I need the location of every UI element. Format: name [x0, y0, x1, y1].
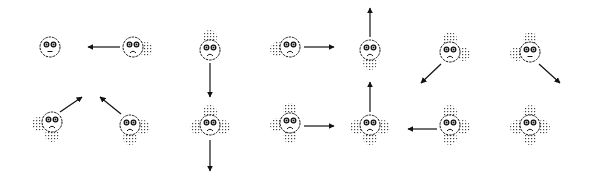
face-r1c5 — [360, 40, 380, 70]
face-outline — [440, 115, 460, 135]
face-r2c5 — [350, 115, 390, 145]
face-outline — [360, 40, 380, 60]
face-r2c4 — [270, 103, 300, 143]
face-r2c1 — [32, 112, 62, 142]
face-outline — [520, 42, 540, 62]
face-outline — [40, 37, 60, 57]
face-outline — [42, 112, 62, 132]
face-r2c3 — [190, 105, 230, 135]
arrow-r2c1 — [60, 97, 82, 112]
face-r1c6 — [440, 32, 470, 62]
arrow-r2c2 — [100, 97, 121, 114]
face-outline — [200, 115, 220, 135]
face-outline — [360, 115, 380, 135]
face-r1c3 — [200, 30, 220, 60]
arrows-layer — [60, 8, 560, 171]
arrow-r1c7 — [539, 64, 560, 83]
face-outline — [520, 115, 540, 135]
arrow-r1c6 — [421, 64, 441, 83]
face-outline — [440, 42, 460, 62]
face-outline — [123, 37, 143, 57]
face-outline — [200, 40, 220, 60]
face-r1c2 — [123, 37, 153, 57]
face-r2c2 — [120, 115, 150, 145]
face-r2c6 — [440, 105, 470, 145]
face-outline — [280, 113, 300, 133]
face-movement-diagram — [0, 0, 590, 180]
face-r1c4 — [270, 37, 300, 57]
face-r2c7 — [510, 105, 550, 145]
face-outline — [120, 115, 140, 135]
face-r1c7 — [510, 32, 540, 62]
face-outline — [280, 37, 300, 57]
face-r1c1 — [40, 37, 60, 57]
